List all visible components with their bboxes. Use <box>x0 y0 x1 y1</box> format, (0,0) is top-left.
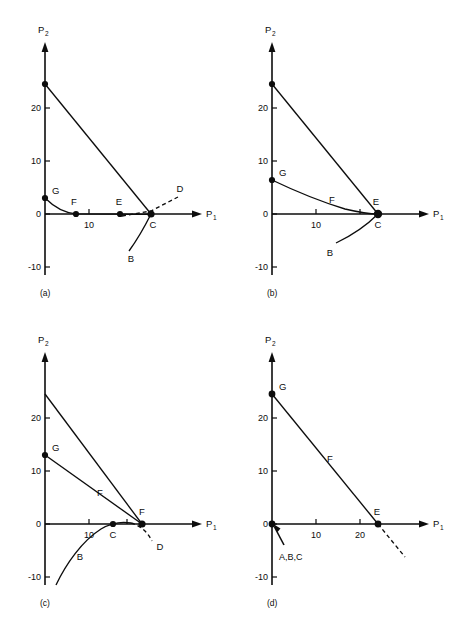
label-f: F <box>71 196 77 207</box>
x-axis-label-a: P 1 <box>206 208 217 221</box>
ylabel-text: P <box>38 24 44 35</box>
series-straight-top-to-c <box>45 84 151 214</box>
xlabel-sub: 1 <box>440 524 444 531</box>
ytick-label-neg10: -10 <box>255 262 268 272</box>
series-dashed-extension <box>378 524 405 557</box>
label-d: D <box>157 541 164 552</box>
xtick-label-10: 10 <box>311 530 321 540</box>
panel-a: 20 10 0 -10 10 G F E <box>0 0 227 310</box>
point-e <box>117 211 123 217</box>
series-curve-b <box>129 214 151 251</box>
x-axis-c <box>45 521 202 528</box>
label-b: B <box>327 247 333 258</box>
ylabel-sub: 2 <box>45 30 49 37</box>
label-b: B <box>77 551 83 562</box>
xlabel-text: P <box>206 208 212 219</box>
y-axis-label-b: P 2 <box>265 24 276 37</box>
y-axis-label-d: P 2 <box>265 334 276 347</box>
xlabel-text: P <box>433 208 439 219</box>
y-axis-a <box>42 42 49 275</box>
panel-label-b: (b) <box>267 288 278 298</box>
xtick-label-10: 10 <box>311 220 321 230</box>
panel-label-a: (a) <box>40 288 51 298</box>
ytick-label-neg10: -10 <box>28 572 41 582</box>
annotation-arrow-abc <box>273 524 285 546</box>
label-c: C <box>150 219 157 230</box>
label-e: E <box>374 506 380 517</box>
xlabel-sub: 1 <box>213 214 217 221</box>
point-g <box>269 177 275 183</box>
series-curve-b <box>336 214 378 243</box>
panel-d: 20 10 0 -10 10 20 G E F <box>227 310 454 620</box>
label-f: F <box>97 487 103 498</box>
x-axis-label-b: P 1 <box>433 208 444 221</box>
ytick-label-20: 20 <box>258 103 268 113</box>
y-axis-label-a: P 2 <box>38 24 49 37</box>
x-axis-label-c: P 1 <box>206 518 217 531</box>
ytick-label-0: 0 <box>36 519 41 529</box>
ytick-label-0: 0 <box>263 209 268 219</box>
xlabel-text: P <box>206 518 212 529</box>
ylabel-sub: 2 <box>272 340 276 347</box>
xlabel-sub: 1 <box>213 524 217 531</box>
y-axis-b <box>269 42 276 275</box>
xlabel-text: P <box>433 518 439 529</box>
point-g <box>42 452 48 458</box>
label-g: G <box>279 381 286 392</box>
x-axis-d <box>272 521 429 528</box>
label-c: C <box>110 529 117 540</box>
point-g <box>269 391 276 398</box>
series-straight-f <box>45 455 142 524</box>
ytick-label-neg10: -10 <box>28 262 41 272</box>
ytick-label-10: 10 <box>258 156 268 166</box>
panel-c: 20 10 0 -10 10 G C F F B D <box>0 310 227 620</box>
ytick-label-10: 10 <box>258 466 268 476</box>
xtick-label-10: 10 <box>84 220 94 230</box>
point-c <box>110 521 116 527</box>
point-top-vertex <box>42 81 48 87</box>
point-e <box>375 521 382 528</box>
label-b: B <box>128 253 134 264</box>
panel-b: 20 10 0 -10 10 G E C F B P <box>227 0 454 310</box>
ylabel-sub: 2 <box>272 30 276 37</box>
label-g: G <box>52 185 59 196</box>
label-abc: A,B,C <box>279 552 303 562</box>
ylabel-text: P <box>38 334 44 345</box>
ylabel-text: P <box>265 334 271 345</box>
label-e: F <box>139 506 145 517</box>
ytick-label-neg10: -10 <box>255 572 268 582</box>
point-f <box>73 211 79 217</box>
ytick-label-10: 10 <box>31 156 41 166</box>
series-straight-top-to-e <box>45 394 142 524</box>
point-c <box>147 210 154 217</box>
ytick-label-0: 0 <box>36 209 41 219</box>
label-c: C <box>375 219 382 230</box>
xtick-label-20: 20 <box>355 530 365 540</box>
ytick-label-10: 10 <box>31 466 41 476</box>
label-e: E <box>373 196 379 207</box>
x-axis-b <box>272 211 429 218</box>
point-g <box>42 195 48 201</box>
label-f: F <box>329 194 335 205</box>
y-axis-c <box>42 352 49 585</box>
label-d: D <box>177 183 184 194</box>
series-straight-top-to-ec <box>272 84 378 214</box>
y-axis-label-c: P 2 <box>38 334 49 347</box>
point-ec <box>374 210 382 218</box>
figure-four-panel: 20 10 0 -10 10 G F E <box>0 0 454 621</box>
series-curve-g-to-c <box>45 198 151 214</box>
point-e <box>138 520 145 527</box>
panel-label-c: (c) <box>40 598 50 608</box>
label-g: G <box>279 167 286 178</box>
ytick-label-20: 20 <box>31 103 41 113</box>
ylabel-text: P <box>265 24 271 35</box>
ytick-label-20: 20 <box>31 413 41 423</box>
xlabel-sub: 1 <box>440 214 444 221</box>
panel-label-d: (d) <box>267 598 278 608</box>
label-f: F <box>327 453 333 464</box>
ylabel-sub: 2 <box>45 340 49 347</box>
ytick-label-0: 0 <box>263 519 268 529</box>
y-axis-d <box>269 352 276 585</box>
label-g: G <box>52 442 59 453</box>
series-straight-f <box>272 394 378 524</box>
